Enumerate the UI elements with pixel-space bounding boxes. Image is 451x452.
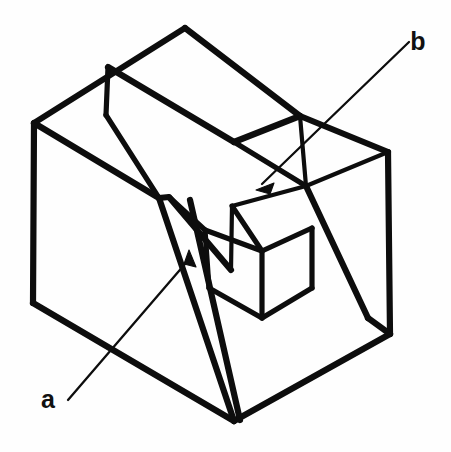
edge-bottom-right <box>234 334 390 421</box>
edge-bottom-left <box>33 303 234 421</box>
leader-line-a <box>68 257 191 400</box>
edge-groove-top-ridge <box>108 67 234 142</box>
edge-top-rear-right-ridge <box>185 28 300 116</box>
edge-left-face-vertical <box>33 123 34 303</box>
edge-right-face-vertical <box>388 152 390 334</box>
edge-right-slot-front-face <box>306 186 368 318</box>
edge-slot-left-upper <box>234 116 300 142</box>
technical-drawing-canvas: a b <box>0 0 451 452</box>
edge-front-top-fold-left <box>34 123 159 198</box>
edge-slot-right-rim <box>300 116 306 186</box>
edge-slot-inner-top-right <box>306 152 388 186</box>
edge-right-slot-lower-fold <box>368 318 390 334</box>
arrow-head-a <box>184 250 196 267</box>
isometric-drawing-figure: a b <box>0 0 451 452</box>
callout-label-b: b <box>410 27 425 55</box>
arrow-head-b <box>256 183 274 194</box>
callout-label-a: a <box>41 385 56 413</box>
edge-pocket-inner-right-diag <box>262 228 312 251</box>
edge-groove-near-wall <box>106 67 108 115</box>
edge-pocket-left-wall <box>169 197 205 230</box>
edge-slot-inner-top-left <box>234 142 306 186</box>
edge-pocket-bottom-right <box>262 288 312 318</box>
edge-right-rib-ridge <box>231 206 232 270</box>
